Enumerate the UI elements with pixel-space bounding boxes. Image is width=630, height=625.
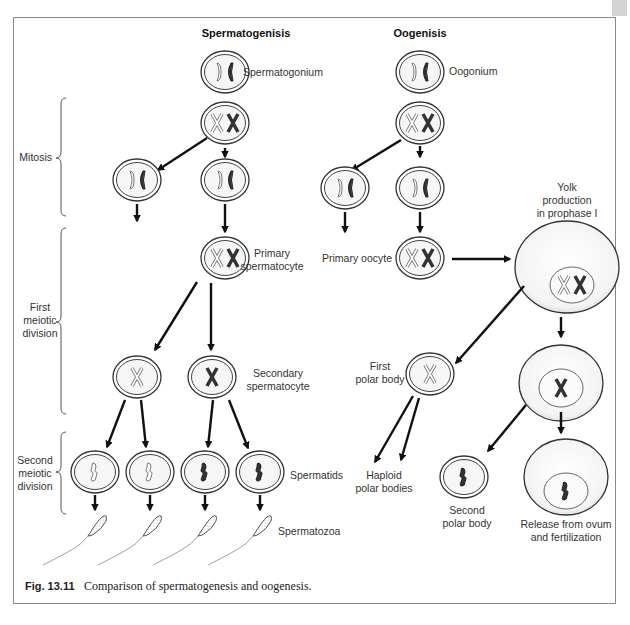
label-secondary-spermatocyte-1: Secondary bbox=[253, 367, 304, 379]
label-yolk-2: production bbox=[542, 194, 591, 206]
label-second-polar-2: polar body bbox=[442, 517, 492, 529]
primary-spermatocyte-cell bbox=[201, 237, 249, 279]
sperm-mitosis-daughter-left bbox=[113, 159, 161, 201]
caption-number: Fig. 13.11 bbox=[25, 580, 75, 592]
secondary-oocyte-cell bbox=[519, 345, 603, 421]
oo-mitosis-daughter-left bbox=[321, 167, 369, 209]
spermatid-4 bbox=[236, 451, 284, 493]
spermatid-2 bbox=[126, 451, 174, 493]
caption-text: Comparison of spermatogenesis and oogene… bbox=[84, 579, 312, 593]
mature-ovum-cell bbox=[524, 439, 608, 515]
figure-caption: Fig. 13.11 Comparison of spermatogenesis… bbox=[25, 576, 312, 593]
spermatozoon-4 bbox=[208, 516, 272, 565]
spermatogonium-cell bbox=[201, 51, 249, 93]
sperm-mitosis-daughter-right bbox=[201, 159, 249, 201]
second-meiotic-brace bbox=[56, 432, 66, 514]
label-oogonium: Oogonium bbox=[449, 65, 498, 77]
label-second-polar-1: Second bbox=[449, 504, 485, 516]
stage-label-first-meiotic-3: division bbox=[22, 327, 57, 339]
label-primary-spermatocyte-1: Primary bbox=[254, 247, 291, 259]
label-primary-oocyte: Primary oocyte bbox=[322, 252, 392, 264]
mitosis-brace bbox=[56, 98, 66, 216]
label-release-2: and fertilization bbox=[531, 531, 602, 543]
label-first-polar-2: polar body bbox=[355, 373, 405, 385]
spermatozoon-1 bbox=[43, 516, 107, 565]
oogonium-cell bbox=[396, 51, 444, 93]
gametogenesis-diagram: Spermatogenisis Oogenisis Mitosis First … bbox=[0, 0, 630, 625]
label-haploid-2: polar bodies bbox=[355, 482, 412, 494]
second-polar-body-cell bbox=[440, 456, 488, 498]
oo-mitosis-daughter-right bbox=[396, 167, 444, 209]
stage-label-first-meiotic-1: First bbox=[30, 301, 50, 313]
stage-label-second-meiotic-2: meiotic bbox=[18, 467, 51, 479]
spermatogenesis-header: Spermatogenisis bbox=[202, 27, 291, 39]
secondary-spermatocyte-right bbox=[188, 356, 236, 398]
label-yolk-1: Yolk bbox=[557, 181, 577, 193]
label-haploid-1: Haploid bbox=[366, 469, 402, 481]
label-yolk-3: in prophase I bbox=[537, 207, 598, 219]
yolk-oocyte-cell bbox=[515, 221, 619, 313]
label-secondary-spermatocyte-2: spermatocyte bbox=[246, 380, 309, 392]
spermatid-3 bbox=[181, 451, 229, 493]
secondary-spermatocyte-left bbox=[113, 356, 161, 398]
spermatid-1 bbox=[71, 451, 119, 493]
oo-replicated-cell bbox=[396, 102, 444, 144]
stage-label-second-meiotic-1: Second bbox=[17, 454, 53, 466]
label-spermatozoa: Spermatozoa bbox=[278, 525, 341, 537]
label-spermatogonium: Spermatogonium bbox=[243, 66, 323, 78]
stage-label-second-meiotic-3: division bbox=[17, 480, 52, 492]
stage-label-mitosis: Mitosis bbox=[19, 151, 52, 163]
first-polar-body-cell bbox=[406, 353, 454, 395]
label-release-1: Release from ovum bbox=[520, 518, 611, 530]
spermatozoon-3 bbox=[153, 516, 217, 565]
primary-oocyte-cell bbox=[396, 237, 444, 279]
first-meiotic-brace bbox=[56, 228, 66, 414]
label-spermatids: Spermatids bbox=[290, 469, 343, 481]
oogenesis-header: Oogenisis bbox=[393, 27, 446, 39]
label-primary-spermatocyte-2: spermatocyte bbox=[240, 260, 303, 272]
stage-label-first-meiotic-2: meiotic bbox=[23, 314, 56, 326]
spermatozoon-2 bbox=[98, 516, 162, 565]
sperm-replicated-cell bbox=[201, 102, 249, 144]
label-first-polar-1: First bbox=[370, 360, 390, 372]
